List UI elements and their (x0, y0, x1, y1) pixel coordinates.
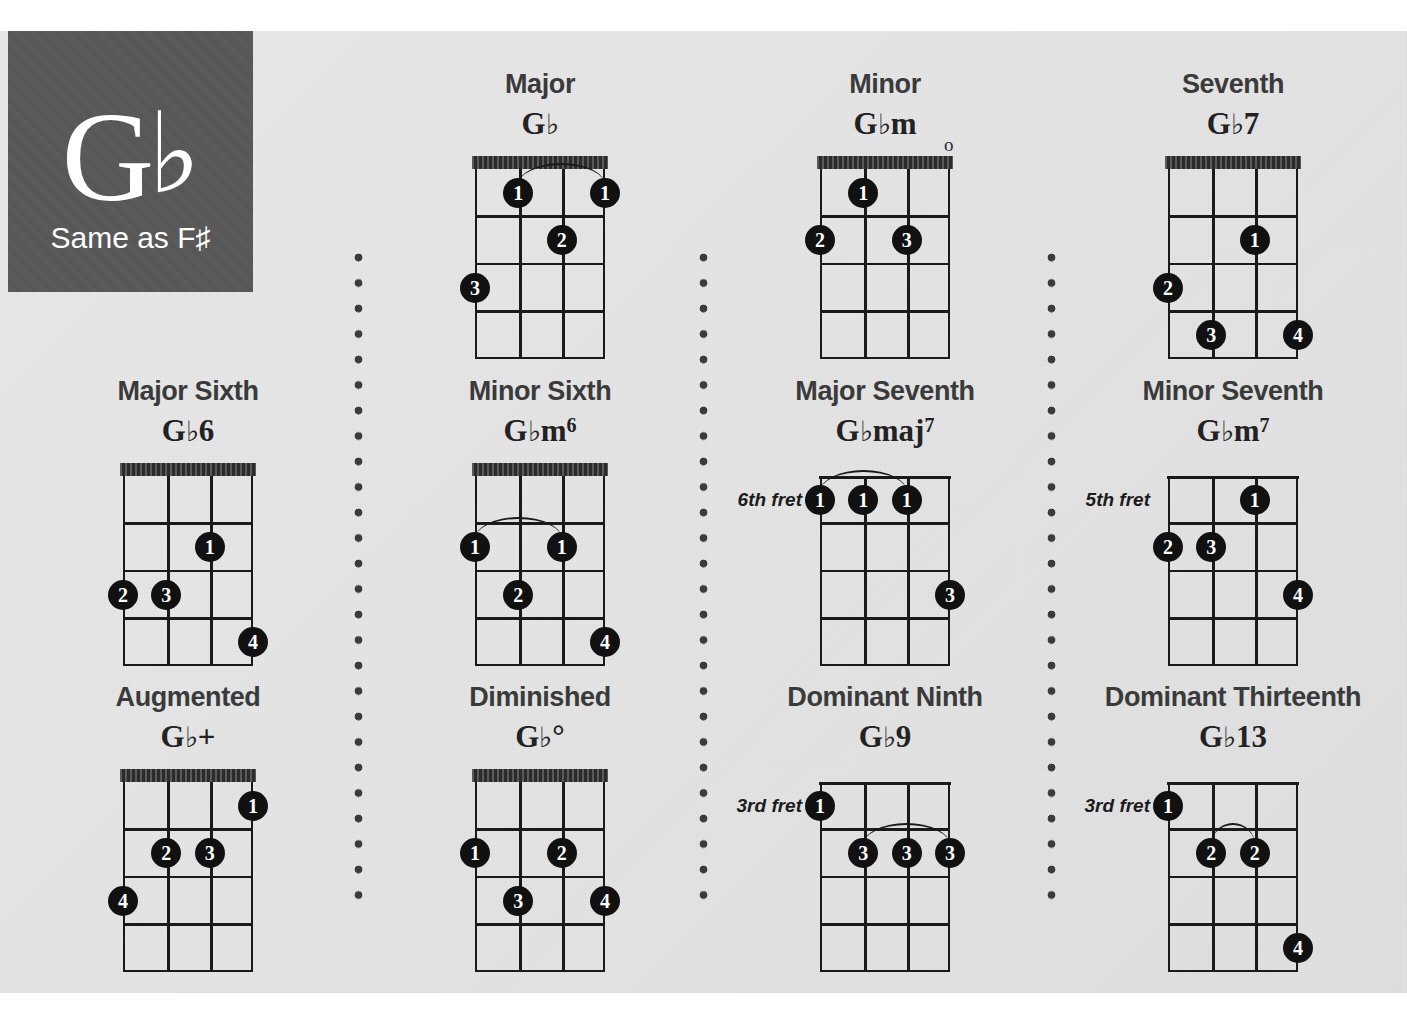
nut-bar (817, 156, 953, 169)
top-fret-line (1167, 782, 1300, 785)
chord-name-flat-symbol: ♭ (185, 722, 198, 753)
chord-type-title: Major Sixth (43, 378, 333, 405)
finger-dot: 1 (892, 485, 922, 515)
chord-name-flat-symbol: ♭ (1231, 109, 1244, 140)
fret-line (477, 310, 603, 312)
finger-dot: 4 (1283, 933, 1313, 963)
finger-dot: 2 (1240, 838, 1270, 868)
finger-dot: 4 (1283, 320, 1313, 350)
finger-dot: 3 (935, 838, 965, 868)
chord-diagram: Major SixthG♭61234 (43, 378, 333, 680)
finger-dot: 4 (590, 886, 620, 916)
fret-line (125, 923, 251, 925)
column-separator-dotted (354, 253, 363, 913)
finger-dot: 1 (195, 532, 225, 562)
column-separator-dotted (1047, 253, 1056, 913)
fretboard-area: 1234 (1088, 153, 1378, 373)
fret-line (822, 876, 948, 878)
fretboard-grid (1168, 169, 1298, 359)
fret-line (1170, 263, 1296, 265)
chord-name-superscript: 7 (924, 414, 934, 436)
fretboard-area: 11136th fret (740, 460, 1030, 680)
fretboard: 1234 (1168, 169, 1298, 359)
column-separator-dotted (699, 253, 708, 913)
fretboard: 11136th fret (820, 476, 950, 666)
fret-line (125, 522, 251, 524)
chord-name-flat-symbol: ♭ (186, 416, 199, 447)
chord-diagram: DiminishedG♭°1234 (395, 684, 685, 986)
nut-bar (120, 769, 256, 782)
finger-dot: 2 (1153, 273, 1183, 303)
finger-dot: 1 (1240, 485, 1270, 515)
finger-dot: 3 (460, 273, 490, 303)
chord-diagram: MajorG♭1123 (395, 71, 685, 373)
fretboard-area: 12243rd fret (1088, 766, 1378, 986)
finger-dot: 2 (108, 580, 138, 610)
fret-position-label: 3rd fret (737, 795, 802, 817)
finger-dot: 1 (503, 178, 533, 208)
chord-type-title: Dominant Ninth (740, 684, 1030, 711)
nut-bar (120, 463, 256, 476)
fretboard-grid (475, 169, 605, 359)
chord-name-flat-symbol: ♭ (546, 109, 559, 140)
chord-name-suffix: m (1234, 413, 1260, 448)
chord-name: G♭m (740, 108, 1030, 139)
chord-name-root: G (515, 719, 539, 754)
fret-line (1170, 876, 1296, 878)
fretboard: 12243rd fret (1168, 782, 1298, 972)
fret-line (477, 828, 603, 830)
finger-dot: 1 (590, 178, 620, 208)
fretboard: 1234 (123, 782, 253, 972)
nut-bar (472, 769, 608, 782)
finger-dot: 4 (238, 627, 268, 657)
fret-line (477, 263, 603, 265)
open-string-marker: o (944, 135, 954, 154)
finger-dot: 1 (1153, 791, 1183, 821)
chord-name-suffix: ° (552, 719, 564, 754)
chord-name-suffix: maj (873, 413, 925, 448)
chord-type-title: Diminished (395, 684, 685, 711)
chord-diagram: Dominant ThirteenthG♭1312243rd fret (1088, 684, 1378, 986)
chord-diagram: AugmentedG♭+1234 (43, 684, 333, 986)
fretboard: 13333rd fret (820, 782, 950, 972)
fretboard-grid (820, 476, 950, 666)
fret-line (822, 263, 948, 265)
chord-name: G♭m7 (1088, 415, 1378, 446)
chord-diagram: SeventhG♭71234 (1088, 71, 1378, 373)
fretboard-grid (475, 476, 605, 666)
fretboard-area: o123 (740, 153, 1030, 373)
chord-name-root: G (1197, 413, 1221, 448)
chord-name: G♭m6 (395, 415, 685, 446)
fretboard-grid (1168, 476, 1298, 666)
fretboard-area: 1234 (43, 460, 333, 680)
key-flat-symbol: ♭ (148, 92, 199, 216)
fretboard-area: 1124 (395, 460, 685, 680)
chord-name: G♭13 (1088, 721, 1378, 752)
chord-diagram: Dominant NinthG♭913333rd fret (740, 684, 1030, 986)
key-glyph: G♭ (8, 93, 253, 221)
key-root-letter: G (62, 86, 152, 228)
finger-dot: 4 (590, 627, 620, 657)
fret-line (822, 617, 948, 619)
fretboard: 1123 (475, 169, 605, 359)
fret-line (477, 570, 603, 572)
chord-name-flat-symbol: ♭ (1223, 722, 1236, 753)
fretboard: o123 (820, 169, 950, 359)
finger-dot: 4 (108, 886, 138, 916)
fretboard: 1234 (475, 782, 605, 972)
chord-name-flat-symbol: ♭ (1221, 416, 1234, 447)
top-fret-line (1167, 476, 1300, 479)
chord-name-superscript: 6 (566, 414, 576, 436)
fret-line (1170, 522, 1296, 524)
chord-name-root: G (521, 106, 545, 141)
chord-name-root: G (854, 106, 878, 141)
fretboard: 1234 (123, 476, 253, 666)
fretboard-area: 12345th fret (1088, 460, 1378, 680)
chord-name: G♭9 (740, 721, 1030, 752)
fretboard-area: 1234 (395, 766, 685, 986)
fret-line (1170, 215, 1296, 217)
fretboard-area: 13333rd fret (740, 766, 1030, 986)
fret-line (477, 876, 603, 878)
fret-line (1170, 310, 1296, 312)
fret-line (822, 923, 948, 925)
